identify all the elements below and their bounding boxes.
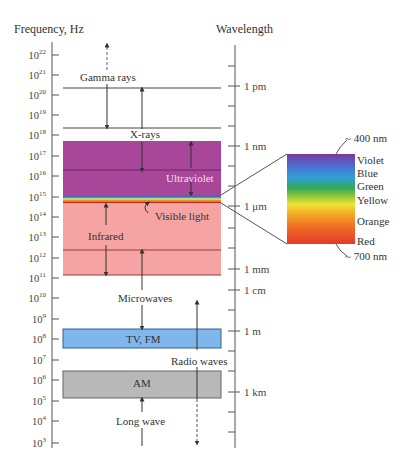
tick-1e16: 1016: [6, 170, 46, 183]
frequency-ticks: [52, 55, 59, 443]
tick-1e13: 1013: [6, 231, 46, 244]
wavelength-1nm: 1 nm: [244, 141, 266, 152]
tick-1e8: 108: [6, 333, 46, 346]
wavelength-1pm: 1 pm: [244, 81, 266, 92]
wavelength-1um: 1 μm: [244, 201, 267, 212]
spectrum-diagram: [0, 0, 415, 468]
label-infrared: Infrared: [86, 231, 125, 242]
label-orange: Orange: [357, 216, 389, 227]
tick-1e19: 1019: [6, 109, 46, 122]
tick-1e15: 1015: [6, 191, 46, 204]
wavelength-1mm: 1 mm: [244, 264, 269, 275]
label-red: Red: [357, 236, 375, 247]
label-400nm: ~ 400 nm: [345, 133, 387, 144]
label-am: AM: [133, 378, 151, 389]
tick-1e4: 104: [6, 415, 46, 428]
tick-1e17: 1017: [6, 150, 46, 163]
tick-1e6: 106: [6, 374, 46, 387]
label-radio-waves: Radio waves: [169, 356, 230, 367]
tick-1e21: 1021: [6, 69, 46, 82]
tick-1e5: 105: [6, 395, 46, 408]
label-gamma-rays: Gamma rays: [78, 72, 138, 83]
tick-1e11: 1011: [6, 272, 46, 285]
label-x-rays: X-rays: [128, 129, 162, 140]
tick-1e20: 1020: [6, 89, 46, 102]
tick-1e9: 109: [6, 313, 46, 326]
label-700nm: ~ 700 nm: [345, 251, 387, 262]
label-long-wave: Long wave: [114, 416, 167, 427]
spectrum-callout-top: [221, 154, 287, 195]
label-blue: Blue: [357, 168, 378, 179]
tick-1e14: 1014: [6, 211, 46, 224]
tick-1e22: 1022: [6, 49, 46, 62]
wavelength-1cm: 1 cm: [244, 285, 266, 296]
wavelength-1km: 1 km: [244, 387, 266, 398]
visible-spectrum-gradient: [287, 154, 355, 244]
tick-1e3: 103: [6, 437, 46, 450]
label-violet: Violet: [357, 155, 384, 166]
visible-violet-blue: [63, 195, 221, 197]
wavelength-1m: 1 m: [244, 326, 261, 337]
label-tv-fm: TV, FM: [126, 334, 161, 345]
label-visible-light: Visible light: [155, 211, 209, 222]
label-yellow: Yellow: [357, 195, 388, 206]
label-ultraviolet: Ultraviolet: [166, 173, 214, 184]
tick-1e10: 1010: [6, 292, 46, 305]
tick-1e7: 107: [6, 354, 46, 367]
tick-1e12: 1012: [6, 252, 46, 265]
label-green: Green: [357, 181, 384, 192]
tick-1e18: 1018: [6, 129, 46, 142]
wavelength-ticks: [228, 66, 240, 432]
label-microwaves: Microwaves: [116, 293, 174, 304]
